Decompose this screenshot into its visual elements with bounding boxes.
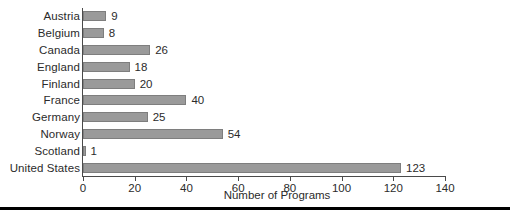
bar-container: 54: [83, 129, 240, 139]
bar-value-label: 40: [191, 94, 204, 106]
x-tick-mark: [342, 176, 343, 181]
bar-container: 26: [83, 45, 168, 55]
bar-row: United States123: [0, 159, 510, 176]
bar: [83, 112, 148, 122]
bar-container: 9: [83, 11, 118, 21]
x-tick-mark: [135, 176, 136, 181]
bar: [83, 129, 223, 139]
bar-value-label: 8: [109, 27, 115, 39]
category-label: Austria: [44, 10, 81, 22]
bottom-divider-rule: [0, 207, 510, 210]
bar-container: 25: [83, 112, 165, 122]
bar-value-label: 54: [228, 128, 241, 140]
bar-row: England18: [0, 58, 510, 75]
x-tick-mark: [83, 176, 84, 181]
bar-container: 8: [83, 28, 115, 38]
bar-value-label: 123: [406, 162, 425, 174]
category-label: United States: [10, 162, 80, 174]
bar-row: Finland20: [0, 75, 510, 92]
bar-container: 20: [83, 79, 153, 89]
bar-chart-screenshot: Austria9Belgium8Canada26England18Finland…: [0, 0, 510, 218]
bar: [83, 79, 135, 89]
bar-row: Austria9: [0, 8, 510, 25]
bar-value-label: 26: [155, 44, 168, 56]
category-label: Scotland: [34, 145, 80, 157]
bar-container: 1: [83, 146, 97, 156]
bar: [83, 163, 401, 173]
category-label: Canada: [39, 44, 80, 56]
bar-value-label: 9: [111, 10, 117, 22]
bar-value-label: 20: [140, 78, 153, 90]
category-label: Belgium: [38, 27, 80, 39]
category-label: France: [44, 94, 80, 106]
bar-value-label: 25: [153, 111, 166, 123]
bar-row: Scotland1: [0, 142, 510, 159]
bar-value-label: 1: [91, 145, 97, 157]
category-label: Finland: [42, 78, 80, 90]
bar-row: France40: [0, 92, 510, 109]
bar-container: 123: [83, 163, 425, 173]
x-axis-title: Number of Programs: [0, 189, 510, 201]
bar: [83, 11, 106, 21]
category-label: Germany: [32, 111, 80, 123]
bar-container: 18: [83, 62, 147, 72]
bar-row: Norway54: [0, 126, 510, 143]
category-label: England: [37, 61, 80, 73]
bar: [83, 146, 86, 156]
bar: [83, 28, 104, 38]
chart-plot-area: Austria9Belgium8Canada26England18Finland…: [0, 0, 510, 200]
x-tick-mark: [238, 176, 239, 181]
bar-rows: Austria9Belgium8Canada26England18Finland…: [0, 8, 510, 176]
bar-container: 40: [83, 95, 204, 105]
x-tick-mark: [393, 176, 394, 181]
x-tick-mark: [445, 176, 446, 181]
bar-value-label: 18: [135, 61, 148, 73]
bar: [83, 45, 150, 55]
bar: [83, 95, 186, 105]
bar: [83, 62, 130, 72]
x-tick-mark: [186, 176, 187, 181]
x-tick-mark: [290, 176, 291, 181]
bar-row: Canada26: [0, 42, 510, 59]
bar-row: Belgium8: [0, 25, 510, 42]
bar-row: Germany25: [0, 109, 510, 126]
category-label: Norway: [40, 128, 80, 140]
